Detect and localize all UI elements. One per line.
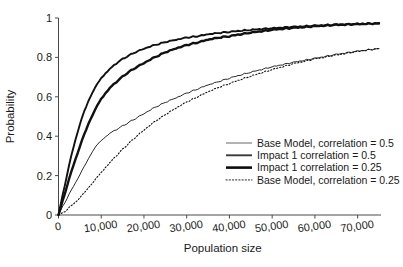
y-tick-label: 0.8 [37, 51, 52, 63]
y-tick-label: 1 [46, 12, 52, 24]
y-axis-title: Probability [4, 89, 16, 143]
x-axis-title: Population size [184, 242, 262, 254]
y-tick-label: 0.6 [37, 91, 52, 103]
chart-figure: 00.20.40.60.81 010,00020,00030,00040,000… [0, 0, 403, 267]
legend-label-0: Base Model, correlation = 0.5 [257, 137, 394, 149]
x-tick-label: 10,000 [83, 218, 118, 235]
data-curves [59, 23, 380, 215]
y-tick-label: 0.4 [37, 130, 52, 142]
x-tick-label: 70,000 [340, 218, 375, 235]
y-tick-label: 0.2 [37, 170, 52, 182]
x-tick-label: 30,000 [169, 218, 204, 235]
x-tick-label: 60,000 [297, 218, 332, 235]
legend-label-2: Impact 1 correlation = 0.25 [257, 161, 382, 173]
chart-legend: Base Model, correlation = 0.5Impact 1 co… [226, 137, 400, 186]
curve-series-2 [59, 23, 380, 215]
curve-series-1 [59, 23, 380, 215]
legend-label-1: Impact 1 correlation = 0.5 [257, 149, 376, 161]
x-tick-label: 0 [54, 220, 62, 233]
x-tick-label: 50,000 [254, 218, 289, 235]
y-axis-ticks: 00.20.40.60.81 [37, 12, 59, 221]
legend-label-3: Base Model, correlation = 0.25 [257, 174, 400, 186]
x-tick-label: 20,000 [126, 218, 161, 235]
y-tick-label: 0 [46, 209, 52, 221]
x-axis-ticks: 010,00020,00030,00040,00050,00060,00070,… [54, 215, 375, 234]
chart-canvas: 00.20.40.60.81 010,00020,00030,00040,000… [0, 0, 403, 267]
x-tick-label: 40,000 [211, 218, 246, 235]
